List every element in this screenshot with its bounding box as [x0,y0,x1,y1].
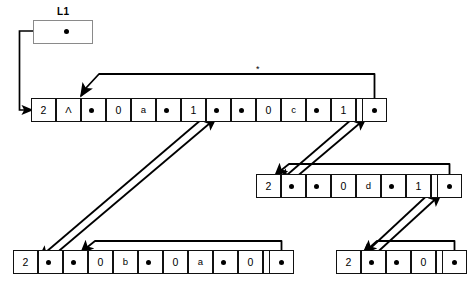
cell-tag: 0 [238,250,263,274]
pointer-dot [71,260,76,265]
cell-atom: b [113,250,138,274]
cell-pointer [63,250,88,274]
cell-pointer [138,250,163,274]
cell-tag: 0 [106,98,131,122]
pointer-dot [239,108,244,113]
pointer-dot [372,108,377,113]
cell-pointer [306,174,331,198]
asterisk-annotation: * [256,66,260,72]
cell-pointer [281,174,306,198]
cell-pointer [361,250,386,274]
edge-top-n3-to-bottom-left [39,113,209,258]
cell-atom: a [131,98,156,122]
cell-pointer [206,98,231,122]
diagram-canvas: L1 * 2 Λ 0 a 1 0 c 1 2 0 d 1 2 0 b [0,0,473,288]
root-box [33,20,93,44]
cell-pointer [231,98,256,122]
cell-pointer [213,250,238,274]
cell-pointer [81,98,106,122]
edge-mid-m3-to-bottom-right [362,189,434,256]
cell-pointer [381,174,406,198]
cell-tag: 0 [331,174,356,198]
cell-tag: 2 [31,98,56,122]
cell-pointer [156,98,181,122]
cell-atom: c [281,98,306,122]
pointer-dot [214,108,219,113]
pointer-dot [369,260,374,265]
root-pointer-dot [64,29,69,34]
pointer-dot [314,108,319,113]
cell-tag: 2 [256,174,281,198]
cell-atom: a [188,250,213,274]
cell-tag: 1 [181,98,206,122]
pointer-dot [289,184,294,189]
cell-tag: 0 [256,98,281,122]
pointer-dot [164,108,169,113]
pointer-dot [447,184,452,189]
edge-bottom-left-to-top-n3 [47,118,216,261]
pointer-dot [46,260,51,265]
cell-tag: 2 [336,250,361,274]
pointer-dot [221,260,226,265]
cell-atom: Λ [56,98,81,122]
cell-tag: 0 [88,250,113,274]
cell-tag: 0 [163,250,188,274]
cell-pointer [306,98,331,122]
cell-tag: 1 [331,98,356,122]
cell-pointer [38,250,63,274]
edge-top-n5-to-mid-right [280,113,359,181]
cell-tag: 1 [406,174,431,198]
pointer-dot [452,260,457,265]
cell-tag: 2 [13,250,38,274]
pointer-dot [314,184,319,189]
pointer-dot [279,260,284,265]
pointer-dot [389,184,394,189]
root-label: L1 [57,6,70,17]
cell-tag: 0 [411,250,436,274]
pointer-dot [146,260,151,265]
pointer-dot [89,108,94,113]
pointer-dot [394,260,399,265]
cell-pointer [386,250,411,274]
cell-atom: d [356,174,381,198]
